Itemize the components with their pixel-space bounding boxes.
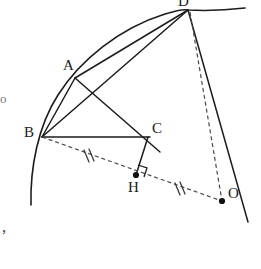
point-label-C: C	[152, 121, 162, 136]
margin-text-fragment-left: o	[0, 92, 7, 105]
margin-comma-bottom-left: ,	[2, 218, 6, 235]
chord-B-D	[42, 10, 188, 137]
line-D-C-O-extended	[188, 10, 248, 222]
geometry-figure-root: A B C D H O o ,	[0, 0, 261, 269]
point-marker-H	[133, 172, 139, 178]
chord-A-D	[75, 10, 188, 78]
equal-length-tick-B-H	[84, 149, 94, 162]
figure-canvas	[0, 0, 261, 269]
point-label-A: A	[63, 58, 74, 73]
point-label-B: B	[24, 125, 34, 140]
point-label-D: D	[178, 0, 189, 9]
point-label-H: H	[128, 180, 139, 195]
point-marker-O	[219, 198, 225, 204]
point-label-O: O	[228, 186, 239, 201]
dashed-segment-D-O	[190, 12, 222, 201]
chord-B-A	[42, 78, 75, 137]
equal-length-tick-H-O	[175, 182, 185, 195]
